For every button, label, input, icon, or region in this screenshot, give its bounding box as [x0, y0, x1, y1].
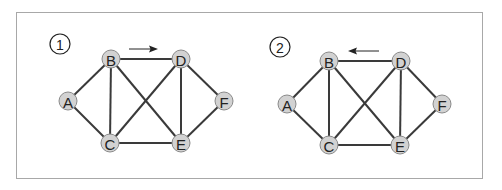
node-e: E	[172, 134, 190, 153]
node-f: F	[215, 92, 233, 111]
node-d: D	[172, 50, 190, 69]
svg-text:A: A	[63, 94, 73, 111]
node-a: A	[59, 92, 77, 111]
edge-b-c	[110, 59, 111, 143]
svg-text:E: E	[176, 136, 186, 153]
svg-text:A: A	[282, 97, 292, 114]
edges	[68, 59, 224, 143]
svg-text:B: B	[324, 54, 334, 71]
svg-text:D: D	[396, 54, 407, 71]
edge-d-e	[400, 61, 401, 145]
panel-1: 1 A B C	[50, 34, 233, 153]
node-f: F	[433, 95, 451, 114]
panel-number: 2	[276, 40, 284, 56]
direction-arrow-left	[348, 48, 379, 55]
svg-text:B: B	[106, 52, 116, 69]
svg-text:D: D	[176, 52, 187, 69]
svg-text:E: E	[395, 138, 405, 155]
graph-diagram: 1 A B C	[0, 0, 502, 190]
svg-text:F: F	[437, 97, 446, 114]
node-c: C	[101, 134, 119, 153]
panel-2: 2 A B C	[270, 37, 451, 155]
node-a: A	[278, 95, 296, 114]
svg-text:C: C	[105, 136, 116, 153]
node-c: C	[320, 136, 338, 155]
panel-number: 1	[56, 37, 64, 53]
direction-arrow-right	[129, 46, 158, 53]
svg-text:F: F	[219, 94, 228, 111]
node-e: E	[391, 136, 409, 155]
svg-text:C: C	[324, 138, 335, 155]
node-d: D	[392, 52, 410, 71]
node-b: B	[320, 52, 338, 71]
node-b: B	[102, 50, 120, 69]
edges	[287, 61, 442, 145]
